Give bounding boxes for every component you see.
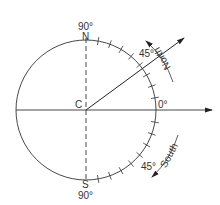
bottom-angle-label: 90° <box>78 190 93 201</box>
lower-45-label: 45° <box>141 161 156 172</box>
south-pole-label: S <box>82 179 89 190</box>
north-pole-label: N <box>82 31 89 42</box>
center-label: C <box>75 99 82 110</box>
zero-angle-label: 0° <box>158 99 168 110</box>
south-arc-label: South <box>158 141 180 169</box>
declination-circle-diagram: 90° N C 0° 45° 45° S 90° North South <box>0 0 220 205</box>
north-arc-label: North <box>151 45 173 72</box>
star-direction-arrow <box>86 38 184 110</box>
